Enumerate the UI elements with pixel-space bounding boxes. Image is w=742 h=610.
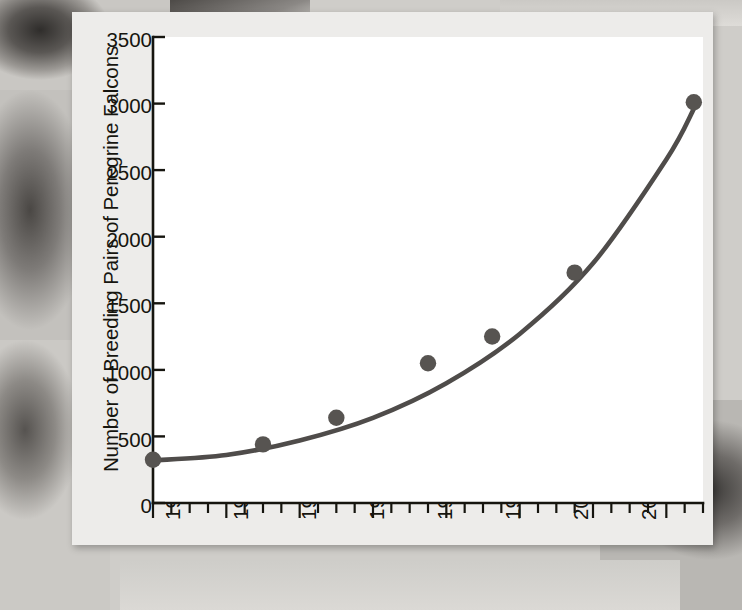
photo-region-bottom <box>120 560 680 610</box>
data-point <box>328 410 344 426</box>
data-point <box>566 264 582 280</box>
chart-svg <box>72 12 713 545</box>
chart-card: Number of Breeding Pairs of Peregrine Fa… <box>72 12 713 545</box>
plot-background <box>153 37 703 503</box>
data-point <box>145 452 161 468</box>
data-point <box>420 355 436 371</box>
plot-area: Number of Breeding Pairs of Peregrine Fa… <box>72 12 713 545</box>
data-point <box>686 94 702 110</box>
data-point <box>484 328 500 344</box>
x-axis-ticks <box>153 503 703 518</box>
data-point <box>255 436 271 452</box>
